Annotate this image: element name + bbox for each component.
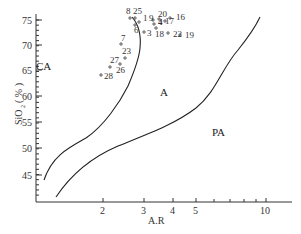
svg-text:27: 27 <box>110 55 120 65</box>
svg-text:25: 25 <box>133 6 143 16</box>
y-axis-label-main: SiO <box>13 109 24 125</box>
x-axis-label: A.R <box>148 215 165 226</box>
y-tick-label: 50 <box>22 143 32 154</box>
point-25: 25 <box>133 6 143 20</box>
svg-text:4: 4 <box>158 17 163 27</box>
y-tick-label: 75 <box>22 15 32 26</box>
region-a-label: A <box>160 86 168 98</box>
a-pa-boundary-curve <box>56 17 260 197</box>
y-tick-label: 70 <box>22 40 32 51</box>
point-8: 8 <box>126 6 132 20</box>
y-tick-label: 65 <box>22 65 32 76</box>
point-18: 18 <box>154 26 165 39</box>
svg-text:23: 23 <box>122 46 132 56</box>
point-6: 6 <box>133 23 139 35</box>
svg-text:28: 28 <box>104 71 114 81</box>
svg-text:16: 16 <box>176 12 186 22</box>
y-ticks: 75706560555045 <box>22 15 42 181</box>
point-28: 28 <box>99 71 114 81</box>
point-9: 9 <box>149 13 155 23</box>
point-4: 4 <box>152 17 163 27</box>
svg-text:3: 3 <box>147 28 152 38</box>
svg-text:8: 8 <box>126 6 131 16</box>
y-axis-label-sub: 2 <box>20 105 26 108</box>
point-17: 17 <box>163 16 175 26</box>
point-23: 23 <box>122 46 132 60</box>
x-tick-label: 5 <box>193 205 198 216</box>
svg-text:19: 19 <box>185 30 195 40</box>
svg-text:22: 22 <box>173 29 182 39</box>
point-3: 3 <box>142 28 152 38</box>
y-tick-label: 45 <box>22 170 32 181</box>
svg-text:7: 7 <box>121 33 126 43</box>
svg-text:6: 6 <box>134 25 139 35</box>
x-tick-label: 3 <box>141 205 146 216</box>
ca-a-boundary-curve <box>44 17 140 180</box>
y-axis-label-unit: ( % ) <box>13 83 25 103</box>
svg-text:18: 18 <box>155 29 165 39</box>
svg-text:1: 1 <box>143 13 148 23</box>
svg-text:9: 9 <box>149 13 154 23</box>
data-points: 8 25 1 6 3 9 20 4 17 16 18 22 19 7 23 27… <box>99 6 195 81</box>
region-ca-label: CA <box>36 60 51 72</box>
x-tick-label: 4 <box>170 205 175 216</box>
region-pa-label: PA <box>212 126 225 138</box>
chart-svg: 234510 75706560555045 CA A PA A.R SiO 2 … <box>0 0 301 234</box>
svg-text:26: 26 <box>116 65 126 75</box>
x-tick-label: 2 <box>100 205 105 216</box>
x-tick-label: 10 <box>260 205 270 216</box>
point-7: 7 <box>119 33 126 46</box>
x-ticks: 234510 <box>100 198 270 216</box>
